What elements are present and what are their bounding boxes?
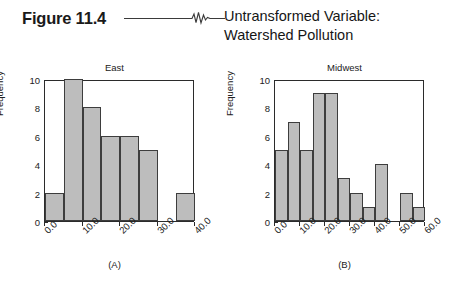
x-tick-label: 40.0 (192, 215, 213, 236)
bars-midwest (275, 81, 423, 221)
y-tick-label: 0 (35, 217, 40, 228)
plot-area-east (44, 80, 194, 222)
histogram-bar (275, 150, 288, 221)
y-tick-label: 8 (35, 103, 40, 114)
histogram-bar (375, 164, 388, 221)
y-tick-label: 8 (265, 103, 270, 114)
histogram-bar (288, 122, 301, 221)
histogram-bar (300, 150, 313, 221)
histogram-bar (313, 93, 326, 221)
y-tick-label: 10 (259, 75, 270, 86)
chart-caption-midwest: (B) (230, 259, 459, 270)
histogram-bar (338, 178, 351, 221)
chart-title-east: East (0, 62, 229, 73)
ekg-squiggle-icon (188, 11, 218, 25)
histogram-bar (176, 193, 195, 221)
histogram-bar (64, 79, 83, 221)
y-tick-label: 0 (265, 217, 270, 228)
figure-number: Figure 11.4 (22, 9, 106, 28)
histogram-bar (325, 93, 338, 221)
y-axis-title-east: Frequency (0, 71, 5, 116)
x-tick-label: 60.0 (422, 215, 443, 236)
histogram-bar (139, 150, 158, 221)
figure-title-line2: Watershed Pollution (224, 27, 353, 43)
bars-east (45, 81, 193, 221)
y-tick-label: 2 (265, 188, 270, 199)
y-tick-label: 4 (265, 160, 270, 171)
y-axis-midwest: 0246810 (250, 80, 270, 222)
histogram-bar (120, 136, 139, 221)
chart-caption-east: (A) (0, 259, 229, 270)
y-tick-label: 6 (35, 131, 40, 142)
header-rule-left (124, 18, 189, 19)
figure-title-line1: Untransformed Variable: (224, 8, 380, 24)
x-axis-midwest: 0.010.020.030.040.050.060.0 (274, 222, 424, 252)
chart-panel-midwest: Midwest Frequency 0246810 0.010.020.030.… (230, 56, 459, 292)
figure-header: Figure 11.4 Untransformed Variable: Wate… (0, 0, 459, 56)
y-axis-title-midwest: Frequency (224, 71, 235, 116)
y-tick-label: 6 (265, 131, 270, 142)
y-tick-label: 10 (29, 75, 40, 86)
figure-title: Untransformed Variable: Watershed Pollut… (224, 7, 380, 45)
y-tick-label: 2 (35, 188, 40, 199)
histogram-bar (45, 193, 64, 221)
histogram-bar (83, 107, 102, 221)
y-tick-label: 4 (35, 160, 40, 171)
x-axis-east: 0.010.020.030.040.0 (44, 222, 194, 252)
y-axis-east: 0246810 (20, 80, 40, 222)
histogram-bar (101, 136, 120, 221)
plot-area-midwest (274, 80, 424, 222)
chart-panel-east: East Frequency 0246810 0.010.020.030.040… (0, 56, 229, 292)
chart-title-midwest: Midwest (230, 62, 459, 73)
